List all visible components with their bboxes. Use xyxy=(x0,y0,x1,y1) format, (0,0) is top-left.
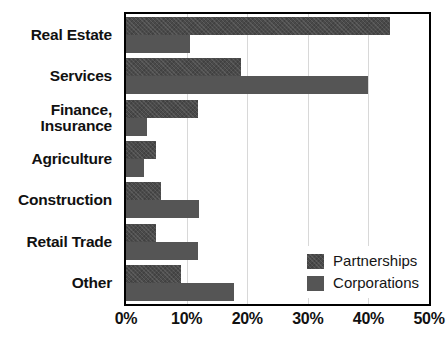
bar-corporations-agriculture xyxy=(126,159,144,177)
bar-partnerships-services xyxy=(126,58,241,76)
x-tick-label-40pct: 40% xyxy=(353,310,384,328)
bar-partnerships-financeinsurance xyxy=(126,100,198,118)
bar-corporations-other xyxy=(126,283,234,301)
bar-corporations-construction xyxy=(126,200,199,218)
category-label-other: Other xyxy=(72,275,112,291)
bar-partnerships-construction xyxy=(126,182,161,200)
legend-label-partnerships: Partnerships xyxy=(333,253,417,269)
legend-swatch-partnerships-icon xyxy=(307,254,324,269)
x-tick-label-0pct: 0% xyxy=(115,310,138,328)
bar-partnerships-retail-trade xyxy=(126,224,156,242)
x-tick-label-30pct: 30% xyxy=(292,310,323,328)
bar-partnerships-agriculture xyxy=(126,141,156,159)
category-label-construction: Construction xyxy=(18,192,112,208)
x-tick-label-10pct: 10% xyxy=(171,310,202,328)
bar-corporations-services xyxy=(126,76,368,94)
legend-label-corporations: Corporations xyxy=(333,275,419,291)
category-label-real-estate: Real Estate xyxy=(31,27,112,43)
bar-partnerships-real-estate xyxy=(126,17,390,35)
category-label-finance-insurance: Finance, Insurance xyxy=(41,102,112,134)
legend-item-corporations: Corporations xyxy=(307,272,419,294)
legend-item-partnerships: Partnerships xyxy=(307,250,419,272)
bar-partnerships-other xyxy=(126,265,181,283)
legend-swatch-corporations-icon xyxy=(307,276,324,291)
category-label-agriculture: Agriculture xyxy=(32,151,112,167)
bar-chart: Real Estate Services Finance, Insurance … xyxy=(0,0,448,350)
y-axis-category-labels: Real Estate Services Finance, Insurance … xyxy=(0,12,118,306)
x-axis-tick-labels: 0%10%20%30%40%50% xyxy=(124,310,431,340)
plot-area: Partnerships Corporations xyxy=(124,12,431,306)
x-tick-label-20pct: 20% xyxy=(232,310,263,328)
bar-corporations-real-estate xyxy=(126,35,190,53)
category-label-services: Services xyxy=(50,68,112,84)
bar-corporations-retail-trade xyxy=(126,242,198,260)
x-tick-label-50pct: 50% xyxy=(413,310,444,328)
bar-corporations-financeinsurance xyxy=(126,118,147,136)
chart-legend: Partnerships Corporations xyxy=(301,246,425,298)
category-label-retail-trade: Retail Trade xyxy=(27,234,112,250)
